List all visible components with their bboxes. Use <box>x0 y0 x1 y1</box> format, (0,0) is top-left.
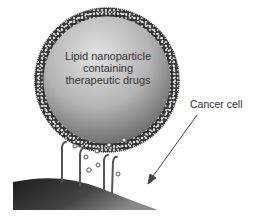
nanoparticle-label-line-2: containing <box>52 62 164 74</box>
nanoparticle-label: Lipid nanoparticle containing therapeuti… <box>52 50 164 86</box>
nanoparticle-label-line-3: therapeutic drugs <box>52 74 164 86</box>
cancer-cell-label: Cancer cell <box>190 98 243 110</box>
nanoparticle-diagram <box>0 0 257 221</box>
cancer-cell-surface <box>13 178 158 210</box>
nanoparticle-label-line-1: Lipid nanoparticle <box>52 50 164 62</box>
